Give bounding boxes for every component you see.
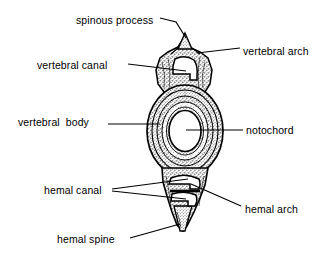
label-hemal-arch: hemal arch (245, 203, 298, 215)
label-hemal-canal: hemal canal (44, 184, 102, 196)
label-hemal-spine: hemal spine (57, 233, 115, 245)
vertebral-arch-mass (156, 33, 212, 92)
notochord-void (169, 111, 201, 152)
hemal-arch-mass (162, 168, 208, 231)
vertebral-body-rings (147, 85, 223, 177)
label-vertebral-arch: vertebral arch (243, 45, 309, 57)
label-vertebral-canal: vertebral canal (37, 59, 107, 71)
leader-spinous-process (160, 18, 186, 38)
label-vertebral-body: vertebral body (18, 116, 89, 128)
leader-hemal-spine (130, 224, 180, 238)
label-notochord: notochord (246, 124, 294, 136)
leader-vertebral-arch (197, 48, 240, 53)
label-spinous-process: spinous process (76, 14, 153, 26)
vertebra-figure (147, 33, 223, 231)
diagram-page: spinous process vertebral arch vertebral… (0, 0, 324, 260)
